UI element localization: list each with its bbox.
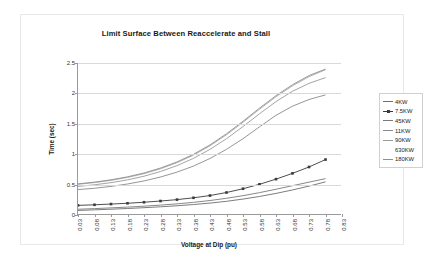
chart-title: Limit Surface Between Reaccelerate and S…: [21, 29, 351, 38]
x-axis-label: Voltage at Dip (pu): [77, 241, 341, 248]
x-tick-mark: [144, 214, 145, 217]
legend-label: 4KW: [395, 99, 408, 105]
x-tick-label: 0.63: [275, 219, 281, 231]
legend-label: 45KW: [395, 118, 411, 124]
legend-swatch-icon: [383, 146, 393, 153]
x-tick-mark: [326, 214, 327, 217]
legend-label: 180KW: [395, 156, 414, 162]
x-tick-mark: [111, 214, 112, 217]
x-tick-mark: [243, 214, 244, 217]
legend-swatch-icon: [383, 156, 393, 163]
legend-label: 11KW: [395, 128, 410, 134]
series-marker: [78, 204, 79, 207]
gridline: [78, 93, 341, 94]
x-tick-mark: [128, 214, 129, 217]
y-tick-mark: [75, 93, 78, 94]
gridline: [78, 124, 341, 125]
series-line: [78, 179, 326, 210]
legend-label: 7.5KW: [395, 108, 412, 114]
x-tick-label: 0.03: [77, 219, 83, 231]
x-tick-label: 0.18: [127, 219, 133, 231]
y-tick-mark: [75, 63, 78, 64]
y-tick-label: 2.5: [67, 60, 75, 66]
x-tick-mark: [161, 214, 162, 217]
x-tick-label: 0.23: [143, 219, 149, 231]
y-axis-label: Time (sec): [48, 123, 55, 155]
y-tick-label: 1: [72, 151, 75, 157]
series-marker: [176, 198, 179, 201]
x-tick-label: 0.68: [292, 219, 298, 231]
legend-swatch-icon: [383, 127, 393, 134]
gridline: [78, 185, 341, 186]
series-marker: [275, 178, 278, 181]
x-tick-mark: [276, 214, 277, 217]
legend-item[interactable]: 90KW: [383, 135, 420, 145]
x-tick-label: 0.28: [160, 219, 166, 231]
gridline: [78, 154, 341, 155]
x-tick-label: 0.78: [325, 219, 331, 231]
legend-swatch-icon: [383, 98, 393, 105]
series-line: [78, 95, 326, 190]
y-tick-mark: [75, 185, 78, 186]
legend-item[interactable]: 180KW: [383, 155, 420, 165]
y-tick-label: 2: [72, 90, 75, 96]
series-marker: [324, 158, 327, 161]
x-tick-label: 0.13: [110, 219, 116, 231]
chart-frame: Limit Surface Between Reaccelerate and S…: [20, 14, 404, 245]
chart-legend: 4KW7.5KW45KW11KW90KW630KW180KW: [379, 93, 423, 168]
series-marker: [93, 203, 96, 206]
legend-swatch-icon: [383, 108, 393, 115]
series-lines: [78, 63, 342, 215]
y-tick-label: 1.5: [67, 121, 75, 127]
legend-item[interactable]: 4KW: [383, 97, 420, 107]
legend-label: 90KW: [395, 137, 411, 143]
x-tick-label: 0.48: [226, 219, 232, 231]
x-tick-mark: [95, 214, 96, 217]
x-tick-mark: [293, 214, 294, 217]
series-marker: [308, 166, 311, 169]
legend-item[interactable]: 11KW: [383, 126, 420, 136]
y-tick-label: 0: [72, 212, 75, 218]
x-tick-label: 0.58: [259, 219, 265, 231]
x-tick-mark: [210, 214, 211, 217]
x-tick-label: 0.38: [193, 219, 199, 231]
series-marker: [192, 196, 195, 199]
legend-item[interactable]: 7.5KW: [383, 107, 420, 117]
series-marker: [110, 203, 113, 206]
plot-area: 00.511.522.5 0.030.080.130.180.230.280.3…: [77, 63, 341, 215]
series-line: [78, 69, 326, 184]
x-tick-label: 0.43: [209, 219, 215, 231]
x-tick-mark: [342, 214, 343, 217]
x-tick-mark: [227, 214, 228, 217]
series-marker: [126, 202, 129, 205]
x-tick-label: 0.53: [242, 219, 248, 231]
x-tick-mark: [309, 214, 310, 217]
y-tick-label: 0.5: [67, 182, 75, 188]
series-marker: [242, 187, 245, 190]
legend-swatch-icon: [383, 117, 393, 124]
y-tick-mark: [75, 124, 78, 125]
series-marker: [143, 201, 146, 204]
x-tick-mark: [194, 214, 195, 217]
series-marker: [209, 194, 212, 197]
x-tick-label: 0.33: [176, 219, 182, 231]
legend-swatch-icon: [383, 137, 393, 144]
gridline: [78, 63, 341, 64]
x-tick-label: 0.08: [94, 219, 100, 231]
x-tick-label: 0.83: [341, 219, 347, 231]
legend-label: 630KW: [395, 147, 414, 153]
x-tick-mark: [260, 214, 261, 217]
x-tick-label: 0.73: [308, 219, 314, 231]
legend-item[interactable]: 45KW: [383, 116, 420, 126]
legend-item[interactable]: 630KW: [383, 145, 420, 155]
x-tick-mark: [177, 214, 178, 217]
series-line: [78, 70, 326, 185]
series-marker: [159, 200, 162, 203]
x-tick-mark: [78, 214, 79, 217]
series-marker: [225, 191, 228, 194]
series-marker: [291, 172, 294, 175]
y-tick-mark: [75, 154, 78, 155]
series-line: [78, 160, 326, 206]
